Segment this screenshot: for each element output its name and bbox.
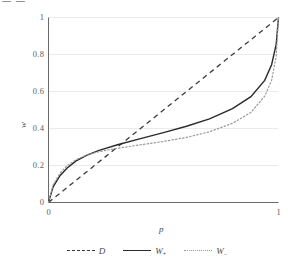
legend-label: W−	[216, 246, 227, 256]
data-curves	[49, 18, 279, 203]
legend-label: D	[99, 246, 106, 256]
chart-figure: — — w p 00.20.40.60.81 01 DW+W−	[0, 0, 294, 269]
plot-area	[0, 0, 294, 269]
gridlines	[49, 18, 279, 166]
legend-label: W+	[155, 246, 166, 256]
legend-label-subscript: +	[163, 251, 166, 257]
legend-item-W_plus[interactable]: W+	[123, 246, 166, 256]
legend-label-subscript: −	[224, 251, 227, 257]
legend-swatch-dotted-icon	[184, 250, 212, 253]
legend-item-W_minus[interactable]: W−	[184, 246, 227, 256]
legend-swatch-solid-icon	[123, 250, 151, 253]
legend-item-D[interactable]: D	[67, 246, 106, 256]
legend: DW+W−	[0, 246, 294, 256]
legend-swatch-dashed-icon	[67, 250, 95, 253]
curve-D	[49, 18, 279, 203]
